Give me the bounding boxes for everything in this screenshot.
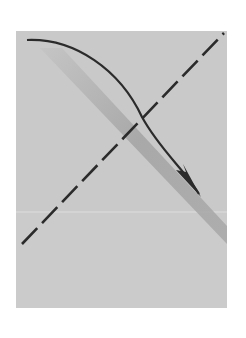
- paper-lower-half: [16, 212, 227, 308]
- folding-diagram: [0, 0, 246, 338]
